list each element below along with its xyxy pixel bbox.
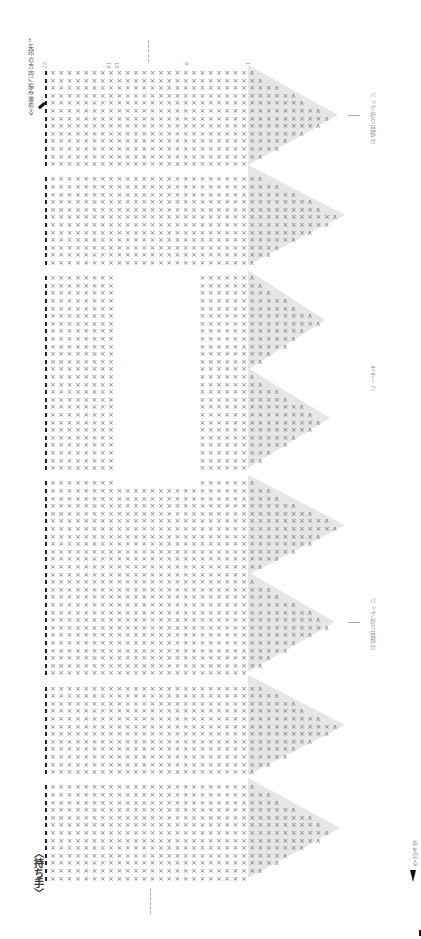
decrease-stitch: ∧ (307, 632, 312, 639)
single-crochet-stitch: × (224, 146, 230, 153)
single-crochet-stitch: × (241, 792, 247, 799)
row-number-start: 27 (42, 62, 48, 68)
single-crochet-stitch: × (316, 526, 322, 533)
edge-mark (45, 413, 47, 417)
single-crochet-stitch: × (175, 70, 181, 77)
single-crochet-stitch: × (166, 830, 172, 837)
single-crochet-stitch: × (75, 769, 81, 776)
single-crochet-stitch: × (166, 868, 172, 875)
single-crochet-stitch: × (258, 602, 264, 609)
single-crochet-stitch: × (100, 830, 106, 837)
single-crochet-stitch: × (241, 260, 247, 267)
edge-mark (45, 854, 47, 858)
single-crochet-stitch: × (116, 602, 122, 609)
single-crochet-stitch: × (141, 876, 147, 883)
single-crochet-stitch: × (199, 670, 205, 677)
single-crochet-stitch: × (166, 146, 172, 153)
single-crochet-stitch: × (208, 526, 214, 533)
single-crochet-stitch: × (258, 252, 264, 259)
decrease-stitch: ∧ (307, 412, 312, 419)
single-crochet-stitch: × (158, 830, 164, 837)
single-crochet-stitch: × (108, 146, 114, 153)
single-crochet-stitch: × (75, 465, 81, 472)
single-crochet-stitch: × (216, 792, 222, 799)
single-crochet-stitch: × (158, 564, 164, 571)
single-crochet-stitch: × (258, 830, 264, 837)
single-crochet-stitch: × (175, 108, 181, 115)
single-crochet-stitch: × (249, 754, 255, 761)
single-crochet-stitch: × (216, 260, 222, 267)
single-crochet-stitch: × (150, 792, 156, 799)
single-crochet-stitch: × (83, 260, 89, 267)
decrease-stitch: ∧ (299, 328, 304, 335)
single-crochet-stitch: × (266, 336, 272, 343)
label-cut-yarn: 糸を切る (410, 840, 419, 866)
single-crochet-stitch: × (216, 876, 222, 883)
single-crochet-stitch: × (150, 222, 156, 229)
single-crochet-stitch: × (58, 108, 64, 115)
single-crochet-stitch: × (249, 412, 255, 419)
single-crochet-stitch: × (50, 876, 56, 883)
single-crochet-stitch: × (58, 488, 64, 495)
single-crochet-stitch: × (233, 184, 239, 191)
single-crochet-stitch: × (141, 792, 147, 799)
single-crochet-stitch: × (199, 488, 205, 495)
single-crochet-stitch: × (282, 640, 288, 647)
single-crochet-stitch: × (75, 108, 81, 115)
single-crochet-stitch: × (191, 70, 197, 77)
single-crochet-stitch: × (166, 769, 172, 776)
edge-mark (45, 573, 47, 577)
single-crochet-stitch: × (67, 830, 73, 837)
single-crochet-stitch: × (175, 868, 181, 875)
single-crochet-stitch: × (83, 670, 89, 677)
edge-mark (45, 740, 47, 744)
single-crochet-stitch: × (83, 184, 89, 191)
decrease-stitch: ∧ (332, 214, 337, 221)
single-crochet-stitch: × (249, 830, 255, 837)
decrease-stitch: ∧ (282, 138, 287, 145)
single-crochet-stitch: × (100, 754, 106, 761)
edge-mark (45, 337, 47, 341)
single-crochet-stitch: × (249, 184, 255, 191)
single-crochet-stitch: × (92, 260, 98, 267)
single-crochet-stitch: × (199, 412, 205, 419)
single-crochet-stitch: × (150, 146, 156, 153)
single-crochet-stitch: × (216, 670, 222, 677)
single-crochet-stitch: × (83, 640, 89, 647)
single-crochet-stitch: × (100, 70, 106, 77)
single-crochet-stitch: × (92, 374, 98, 381)
single-crochet-stitch: × (133, 526, 139, 533)
edge-mark (45, 223, 47, 227)
single-crochet-stitch: × (208, 412, 214, 419)
edge-mark (45, 755, 47, 759)
single-crochet-stitch: × (233, 412, 239, 419)
single-crochet-stitch: × (83, 146, 89, 153)
single-crochet-stitch: × (233, 161, 239, 168)
single-crochet-stitch: × (241, 184, 247, 191)
single-crochet-stitch: × (158, 868, 164, 875)
single-crochet-stitch: × (266, 222, 272, 229)
single-crochet-stitch: × (291, 716, 297, 723)
edge-mark (45, 626, 47, 630)
single-crochet-stitch: × (50, 412, 56, 419)
single-crochet-stitch: × (258, 792, 264, 799)
single-crochet-stitch: × (274, 830, 280, 837)
edge-mark (45, 185, 47, 189)
single-crochet-stitch: × (224, 412, 230, 419)
single-crochet-stitch: × (141, 161, 147, 168)
single-crochet-stitch: × (208, 602, 214, 609)
decrease-stitch: ∧ (307, 427, 312, 434)
single-crochet-stitch: × (83, 876, 89, 883)
edge-mark (45, 801, 47, 805)
single-crochet-stitch: × (191, 564, 197, 571)
single-crochet-stitch: × (67, 184, 73, 191)
single-crochet-stitch: × (141, 260, 147, 267)
single-crochet-stitch: × (108, 564, 114, 571)
single-crochet-stitch: × (92, 450, 98, 457)
edge-mark (45, 109, 47, 113)
single-crochet-stitch: × (133, 754, 139, 761)
single-crochet-stitch: × (116, 716, 122, 723)
single-crochet-stitch: × (83, 70, 89, 77)
decrease-stitch: ∧ (291, 640, 296, 647)
single-crochet-stitch: × (166, 716, 172, 723)
